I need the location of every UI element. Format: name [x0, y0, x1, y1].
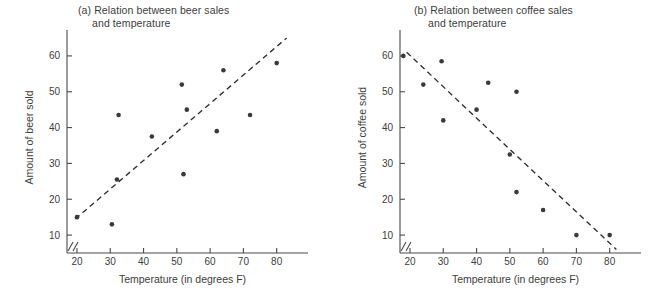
- data-point: [486, 80, 491, 85]
- x-tick-label: 30: [438, 256, 450, 267]
- data-point: [474, 107, 479, 112]
- y-tick-label: 10: [382, 230, 394, 241]
- x-tick-label: 50: [504, 256, 516, 267]
- scatterplot-figure: (a) Relation between beer sales and temp…: [0, 0, 672, 307]
- x-tick-label: 70: [238, 256, 250, 267]
- data-point: [248, 113, 253, 118]
- data-point: [75, 215, 80, 220]
- data-point: [541, 208, 546, 213]
- data-point: [180, 82, 185, 87]
- data-point: [181, 172, 186, 177]
- y-tick-label: 60: [49, 50, 61, 61]
- x-tick-label: 60: [538, 256, 550, 267]
- panel-beer-sales: (a) Relation between beer sales and temp…: [0, 0, 336, 307]
- x-tick-label: 40: [471, 256, 483, 267]
- data-point: [214, 129, 219, 134]
- y-tick-label: 50: [382, 86, 394, 97]
- y-tick-label: 60: [382, 50, 394, 61]
- y-tick-label: 30: [382, 158, 394, 169]
- data-point: [439, 59, 444, 64]
- x-tick-label: 30: [105, 256, 117, 267]
- x-tick-label: 70: [571, 256, 583, 267]
- y-axis-title: Amount of coffee sold: [356, 87, 368, 189]
- y-tick-label: 30: [49, 158, 61, 169]
- x-tick-label: 80: [271, 256, 283, 267]
- data-point: [115, 177, 120, 182]
- data-point: [274, 61, 279, 66]
- y-tick-label: 10: [49, 230, 61, 241]
- x-tick-label: 20: [71, 256, 83, 267]
- x-tick-label: 40: [138, 256, 150, 267]
- y-tick-label: 40: [49, 122, 61, 133]
- x-tick-label: 80: [604, 256, 616, 267]
- panel-b-plot: 20304050607080102030405060Temperature (i…: [336, 0, 672, 307]
- data-point: [441, 118, 446, 123]
- data-point: [150, 134, 155, 139]
- data-point: [508, 152, 513, 157]
- y-axis-title: Amount of beer sold: [23, 90, 35, 184]
- y-tick-label: 20: [382, 194, 394, 205]
- trend-line: [75, 38, 286, 219]
- y-tick-label: 50: [49, 86, 61, 97]
- data-point: [221, 68, 226, 73]
- data-point: [421, 82, 426, 87]
- x-tick-label: 60: [205, 256, 217, 267]
- y-tick-label: 20: [49, 194, 61, 205]
- data-point: [401, 54, 406, 59]
- data-point: [185, 107, 190, 112]
- data-point: [574, 233, 579, 238]
- y-tick-label: 40: [382, 122, 394, 133]
- trend-line: [407, 52, 617, 249]
- panel-a-plot: 20304050607080102030405060Temperature (i…: [0, 0, 336, 307]
- data-point: [607, 233, 612, 238]
- x-axis-title: Temperature (in degrees F): [452, 273, 579, 285]
- data-point: [116, 113, 121, 118]
- x-tick-label: 50: [171, 256, 183, 267]
- x-axis-title: Temperature (in degrees F): [119, 273, 246, 285]
- x-tick-label: 20: [404, 256, 416, 267]
- panel-coffee-sales: (b) Relation between coffee sales and te…: [336, 0, 672, 307]
- data-point: [110, 222, 115, 227]
- data-point: [514, 190, 519, 195]
- data-point: [514, 89, 519, 94]
